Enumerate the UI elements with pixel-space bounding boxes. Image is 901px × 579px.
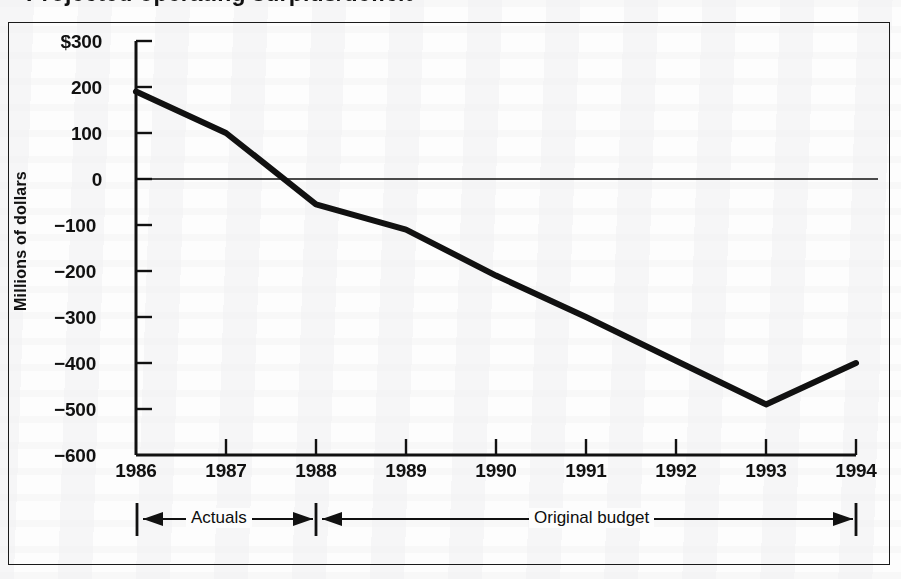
arrow-left-icon: [143, 512, 163, 526]
arrow-right-icon: [293, 512, 313, 526]
data-series-line: [136, 92, 856, 405]
chart-page: Projected operating surplus/deficit Mill…: [0, 0, 901, 579]
arrow-right-icon: [833, 512, 853, 526]
chart-plot-area: Millions of dollars $300 200 100 0 −100 …: [0, 0, 901, 579]
bracket-label-original-budget: Original budget: [529, 508, 654, 528]
bracket-label-actuals: Actuals: [186, 508, 252, 528]
arrow-left-icon: [322, 512, 342, 526]
chart-vector-layer: [0, 0, 901, 579]
x-tick-marks: [226, 439, 856, 455]
